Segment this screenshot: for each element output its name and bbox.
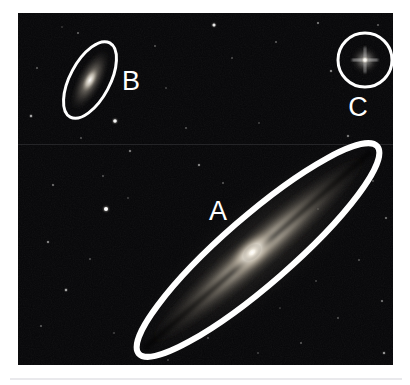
field-star-core [129,150,131,152]
field-star [274,40,278,44]
field-star [278,306,281,309]
field-star [88,257,92,261]
field-star-core [80,137,82,139]
field-star-core [47,241,49,243]
figure-root: ABC [0,0,410,385]
star-c [352,47,378,73]
field-star [101,174,105,178]
field-star [60,25,63,28]
annotation-label-b: B [122,66,140,96]
field-star [76,31,80,35]
field-star-core [40,325,42,327]
field-star [153,44,156,47]
field-star [35,66,39,70]
field-star-core [300,342,302,344]
field-star-core [257,352,258,353]
field-star [314,279,317,282]
star-c-core [360,55,369,64]
field-star [126,196,129,199]
annotation-label-a: A [209,196,227,226]
annotation-label-c: C [348,92,368,122]
field-star [357,258,361,262]
field-star [63,287,68,292]
field-star-core [315,280,316,281]
field-star [197,163,201,167]
field-star-core [337,317,339,319]
field-star-core [165,87,166,88]
field-star-core [102,175,104,177]
field-star-core [383,352,385,354]
field-star-core [154,45,155,46]
field-star [380,299,384,303]
field-star-core [52,184,54,186]
field-star [128,149,132,153]
plate-canvas: ABC [18,13,393,365]
field-star-core [358,259,360,261]
field-star [230,56,233,59]
field-star-core [89,258,91,260]
field-star-core [213,24,216,27]
field-star [382,351,387,356]
field-star-core [185,127,187,129]
field-star [164,86,167,89]
field-star-core [258,122,259,123]
field-star-core [30,115,32,117]
field-star-core [222,182,224,184]
field-star-core [275,41,277,43]
field-star-core [61,26,62,27]
field-star-core [231,57,232,58]
field-star [46,240,50,244]
field-star-core [77,32,79,34]
field-star [39,324,43,328]
field-star [211,22,218,29]
field-star [257,121,260,124]
field-star-core [65,289,67,291]
field-star [329,69,333,73]
field-star [299,341,303,345]
field-star [51,183,55,187]
field-star-core [385,217,387,219]
field-star [102,205,111,214]
field-star [221,181,225,185]
field-star [79,136,83,140]
caption-divider [10,378,402,380]
field-star-core [317,22,319,24]
field-star-core [113,332,114,333]
field-star-core [36,67,38,69]
field-star [112,331,115,334]
field-star [111,117,119,125]
field-star [384,216,388,220]
field-star-core [381,300,383,302]
field-star [316,21,320,25]
field-star-core [330,70,332,72]
field-star-core [104,207,108,211]
astronomical-plate: ABC [18,13,393,365]
field-star-core [113,119,117,123]
field-star [336,316,340,320]
field-star [376,23,380,27]
field-star [184,126,188,130]
field-star-core [198,164,200,166]
field-star-core [377,24,379,26]
field-star [256,351,259,354]
field-star [28,113,33,118]
field-star-core [279,307,280,308]
field-star-core [127,197,128,198]
